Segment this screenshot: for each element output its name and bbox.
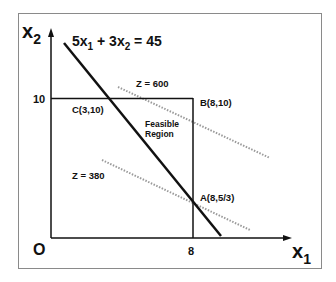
feasible-region-label-line2: Region [145,129,174,139]
z380-label: Z = 380 [72,170,104,181]
origin-label: O [33,241,45,258]
feasible-region-label-line1: Feasible [145,119,179,129]
y-tick-10: 10 [33,93,45,105]
x-tick-8: 8 [188,245,194,257]
point-a-label: A(8,5/3) [200,192,234,203]
lp-diagram: x2 x1 O 8 10 5x1 + 3x2 = 45 C(3,10) B(8,… [0,0,336,282]
point-c-label: C(3,10) [72,104,104,115]
point-b-label: B(8,10) [200,97,232,108]
diagram-frame [19,14,322,269]
z600-label: Z = 600 [136,78,168,89]
